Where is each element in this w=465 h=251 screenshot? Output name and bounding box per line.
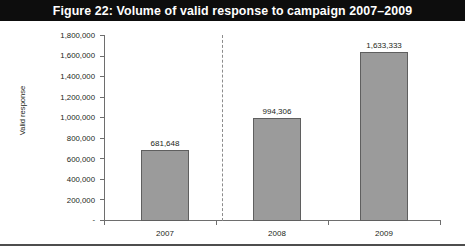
y-axis-tick-labels: 1,800,000 1,600,000 1,400,000 1,200,000 … <box>33 21 95 251</box>
x-category-label-2009: 2009 <box>350 229 418 238</box>
figure-title: Figure 22: Volume of valid response to c… <box>53 4 412 18</box>
y-tick-label-800000: 800,000 <box>35 135 95 143</box>
y-tick-mark-200000 <box>100 199 105 200</box>
bottom-divider <box>0 244 465 246</box>
y-tick-mark-1800000 <box>100 35 105 36</box>
y-tick-mark-400000 <box>100 179 105 180</box>
bar-2009 <box>360 52 408 221</box>
x-tick-mark-2 <box>328 220 329 225</box>
bar-label-2007: 681,648 <box>131 139 199 148</box>
bar-label-2009: 1,633,333 <box>350 41 418 50</box>
y-tick-mark-1000000 <box>100 117 105 118</box>
y-tick-label-1200000: 1,200,000 <box>35 94 95 102</box>
y-tick-mark-600000 <box>100 158 105 159</box>
y-tick-label-200000: 200,000 <box>35 197 95 205</box>
y-tick-mark-1600000 <box>100 56 105 57</box>
x-tick-mark-1 <box>216 220 217 225</box>
y-tick-label-1400000: 1,400,000 <box>35 73 95 81</box>
y-tick-mark-1400000 <box>100 76 105 77</box>
bar-chart: Valid response 1,800,000 1,600,000 1,400… <box>0 21 465 251</box>
y-tick-label-600000: 600,000 <box>35 156 95 164</box>
bar-2007 <box>141 150 189 221</box>
x-tick-mark-end <box>440 220 441 225</box>
bar-2008 <box>253 118 301 221</box>
y-tick-label-1800000: 1,800,000 <box>35 32 95 40</box>
x-tick-mark-start <box>104 220 105 225</box>
y-tick-label-zero: - <box>35 216 95 224</box>
figure-title-bar: Figure 22: Volume of valid response to c… <box>0 0 465 21</box>
y-tick-mark-1200000 <box>100 97 105 98</box>
y-tick-mark-800000 <box>100 138 105 139</box>
y-tick-label-1000000: 1,000,000 <box>35 114 95 122</box>
y-axis-title: Valid response <box>18 71 27 151</box>
y-axis-line <box>104 35 105 220</box>
vertical-dashed-separator <box>222 35 223 221</box>
y-tick-label-400000: 400,000 <box>35 176 95 184</box>
x-category-label-2008: 2008 <box>243 229 311 238</box>
figure-container: Figure 22: Volume of valid response to c… <box>0 0 465 251</box>
bar-label-2008: 994,306 <box>243 107 311 116</box>
x-category-label-2007: 2007 <box>131 229 199 238</box>
y-tick-label-1600000: 1,600,000 <box>35 52 95 60</box>
